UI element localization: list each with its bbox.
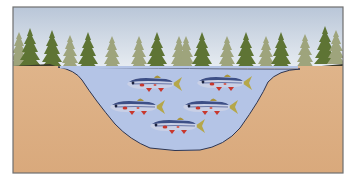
pond-illustration <box>0 0 352 181</box>
